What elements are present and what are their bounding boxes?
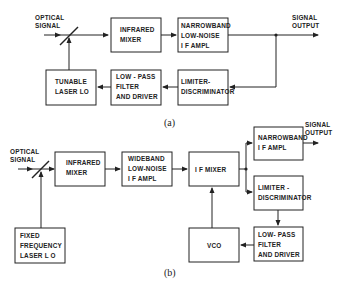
svg-text:INFRARED: INFRARED xyxy=(66,159,101,166)
svg-text:VCO: VCO xyxy=(207,242,221,249)
svg-text:I F AMPL: I F AMPL xyxy=(181,42,210,49)
svg-text:LOW - PASS: LOW - PASS xyxy=(116,73,156,80)
svg-text:LASER L O: LASER L O xyxy=(20,252,56,259)
svg-text:WIDEBAND: WIDEBAND xyxy=(128,155,165,162)
a-limiter-discriminator-block: LIMITER- DISCRIMINATOR xyxy=(178,70,235,105)
svg-text:FILTER: FILTER xyxy=(116,83,139,90)
b-input-label-2: SIGNAL xyxy=(10,156,35,163)
b-output-label-2: OUTPUT xyxy=(305,129,332,136)
svg-text:AND DRIVER: AND DRIVER xyxy=(116,93,158,100)
svg-text:I F MIXER: I F MIXER xyxy=(195,166,226,173)
svg-text:NARROWBAND: NARROWBAND xyxy=(181,22,231,29)
a-input-label-1: OPTICAL xyxy=(35,14,64,21)
a-input-label-2: SIGNAL xyxy=(35,22,60,29)
svg-text:DISCRIMINATOR: DISCRIMINATOR xyxy=(258,194,312,201)
svg-text:LASER LO: LASER LO xyxy=(55,88,89,95)
b-if-mixer-block: I F MIXER xyxy=(189,152,239,186)
a-output-label-2: OUTPUT xyxy=(292,22,319,29)
b-to-narrowband-arrow xyxy=(246,143,252,169)
diagram-b: OPTICAL SIGNAL INFRARED MIXER WIDEBAND L… xyxy=(10,121,332,279)
a-infrared-mixer-block: INFRARED MIXER xyxy=(111,18,161,52)
svg-text:DISCRIMINATOR: DISCRIMINATOR xyxy=(181,88,235,95)
svg-text:FIXED: FIXED xyxy=(20,232,40,239)
svg-text:I F AMPL: I F AMPL xyxy=(128,175,157,182)
svg-text:I F AMPL: I F AMPL xyxy=(258,144,287,151)
svg-text:LIMITER -: LIMITER - xyxy=(258,184,289,191)
a-lowpass-filter-block: LOW - PASS FILTER AND DRIVER xyxy=(111,70,161,105)
svg-text:MIXER: MIXER xyxy=(120,36,141,43)
a-feedback-arrow xyxy=(230,35,276,87)
b-wideband-amp-block: WIDEBAND LOW-NOISE I F AMPL xyxy=(122,152,172,186)
b-lowpass-filter-block: LOW- PASS FILTER AND DRIVER xyxy=(254,227,303,261)
b-caption: (b) xyxy=(164,267,176,279)
a-output-label-1: SIGNAL xyxy=(292,14,317,21)
a-narrowband-amp-block: NARROWBAND LOW-NOISE I F AMPL xyxy=(178,18,231,52)
b-infrared-mixer-block: INFRARED MIXER xyxy=(55,152,105,186)
svg-text:LOW- PASS: LOW- PASS xyxy=(258,231,296,238)
svg-text:FILTER: FILTER xyxy=(258,241,281,248)
a-caption: (a) xyxy=(164,117,175,129)
diagram-a: OPTICAL SIGNAL INFRARED MIXER NARROWBAND… xyxy=(35,14,319,129)
svg-text:LOW-NOISE: LOW-NOISE xyxy=(181,32,220,39)
b-narrowband-amp-block: NARROWBAND I F AMPL xyxy=(254,127,308,160)
b-vco-block: VCO xyxy=(189,228,239,262)
svg-text:INFRARED: INFRARED xyxy=(120,26,155,33)
svg-text:TUNABLE: TUNABLE xyxy=(55,78,87,85)
svg-text:LOW-NOISE: LOW-NOISE xyxy=(128,165,167,172)
a-tunable-laser-block: TUNABLE LASER LO xyxy=(46,70,96,105)
b-output-label-1: SIGNAL xyxy=(305,121,330,128)
svg-text:NARROWBAND: NARROWBAND xyxy=(258,134,308,141)
b-fixed-laser-block: FIXED FREQUENCY LASER L O xyxy=(15,228,65,263)
svg-text:AND DRIVER: AND DRIVER xyxy=(258,251,300,258)
b-to-limiter-arrow xyxy=(246,169,252,192)
svg-text:MIXER: MIXER xyxy=(66,169,87,176)
b-input-label-1: OPTICAL xyxy=(10,148,39,155)
svg-text:LIMITER-: LIMITER- xyxy=(181,78,210,85)
block-diagrams: OPTICAL SIGNAL INFRARED MIXER NARROWBAND… xyxy=(0,0,337,282)
svg-text:FREQUENCY: FREQUENCY xyxy=(20,242,62,250)
b-limiter-discriminator-block: LIMITER - DISCRIMINATOR xyxy=(254,176,312,210)
